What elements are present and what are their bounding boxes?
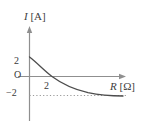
x-axis-label: R [Ω]	[110, 81, 135, 92]
x-tick-label-2: 2	[44, 81, 49, 91]
x-axis-unit: [Ω]	[119, 80, 135, 92]
plot-canvas	[0, 0, 143, 125]
y-axis-label: I [A]	[24, 11, 46, 22]
y-tick-label-2: 2	[14, 56, 19, 66]
y-axis-arrowhead	[27, 26, 32, 33]
y-tick-label-origin: O	[14, 70, 21, 80]
y-tick-label-minus-2: −2	[6, 88, 17, 98]
y-axis-unit: [A]	[30, 10, 45, 22]
x-axis-arrowhead	[119, 74, 126, 79]
x-axis-symbol: R	[110, 80, 117, 92]
chart-figure: I [A] R [Ω] 2 O −2 2	[0, 0, 143, 125]
